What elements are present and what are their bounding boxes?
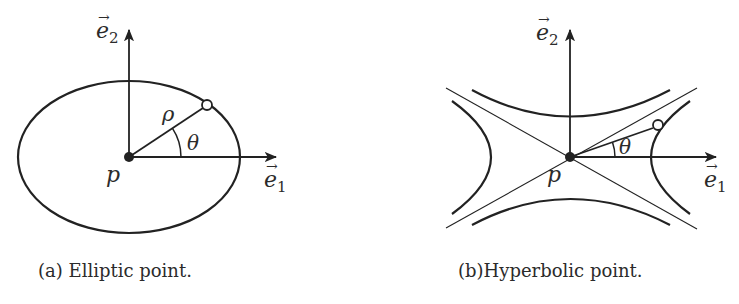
- curve-point: [202, 100, 212, 110]
- e2-vector-arrow-icon: →: [538, 11, 550, 27]
- origin-point: [565, 152, 575, 162]
- e1-vector-arrow-icon: →: [266, 158, 278, 174]
- curve-point: [653, 120, 663, 130]
- angle-label: θ: [187, 131, 199, 155]
- elliptic-diagram: e2 → e1 → p ρ θ: [18, 9, 287, 233]
- point-label: p: [547, 162, 561, 187]
- e2-vector-arrow-icon: →: [98, 9, 110, 25]
- hyperbola-branch-left: [452, 101, 491, 214]
- e1-vector-arrow-icon: →: [706, 158, 718, 174]
- hyperbola-branch-top: [472, 90, 670, 117]
- radius-line: [570, 128, 653, 157]
- radius-label: ρ: [161, 102, 175, 126]
- angle-arc: [613, 142, 616, 157]
- caption-hyperbolic: (b)Hyperbolic point.: [458, 260, 643, 281]
- hyperbolic-diagram: e2 → e1 → p θ: [446, 11, 727, 229]
- origin-point: [124, 152, 134, 162]
- caption-elliptic: (a) Elliptic point.: [38, 260, 192, 281]
- point-label: p: [106, 162, 120, 187]
- angle-arc: [173, 128, 182, 157]
- hyperbola-branch-bottom: [472, 199, 670, 225]
- angle-label: θ: [619, 135, 631, 159]
- figure-canvas: e2 → e1 → p ρ θ e2 → e1 → p θ (a) Ellipt…: [0, 0, 739, 304]
